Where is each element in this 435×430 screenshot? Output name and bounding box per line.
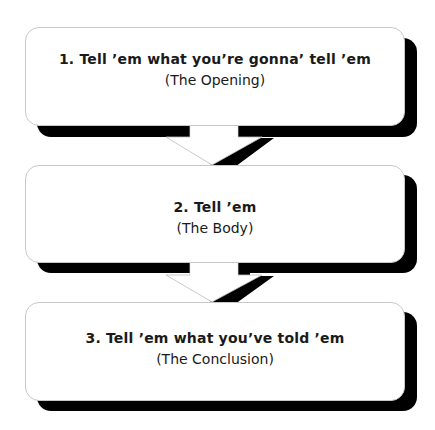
step-2-title: 2. Tell ’em [173, 197, 256, 217]
step-1-box: 1. Tell ’em what you’re gonna’ tell ’em … [25, 27, 405, 126]
step-3-subtitle: (The Conclusion) [156, 349, 274, 369]
step-3-title: 3. Tell ’em what you’ve told ’em [85, 328, 344, 348]
step-1-subtitle: (The Opening) [165, 70, 265, 90]
step-2-subtitle: (The Body) [177, 218, 254, 238]
flow-diagram: 1. Tell ’em what you’re gonna’ tell ’em … [0, 0, 435, 430]
step-3-box: 3. Tell ’em what you’ve told ’em (The Co… [25, 302, 405, 401]
step-2-box: 2. Tell ’em (The Body) [25, 165, 405, 263]
step-1-title: 1. Tell ’em what you’re gonna’ tell ’em [59, 49, 371, 69]
